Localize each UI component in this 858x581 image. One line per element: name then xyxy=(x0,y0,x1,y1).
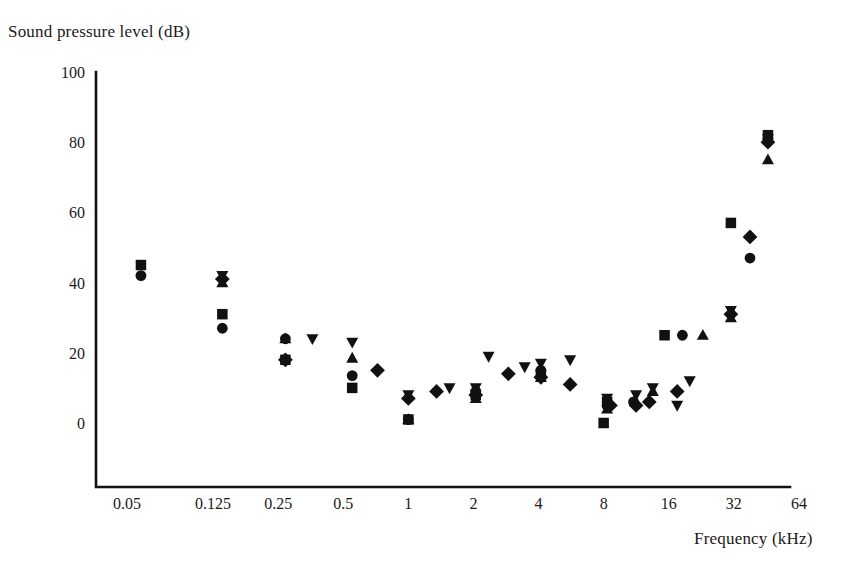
data-point-triangle-up xyxy=(762,153,774,164)
y-tick-label: 40 xyxy=(69,275,85,292)
data-point-triangle-down xyxy=(519,362,531,373)
y-tick-labels: 020406080100 xyxy=(61,64,85,432)
x-tick-label: 2 xyxy=(469,495,477,512)
data-point-diamond xyxy=(563,377,578,392)
figure-canvas: Sound pressure level (dB) Frequency (kHz… xyxy=(0,0,858,581)
data-point-circle xyxy=(745,253,756,264)
x-tick-labels: 0.050.1250.250.51248163264 xyxy=(113,495,807,512)
data-point-triangle-down xyxy=(483,352,495,363)
data-point-triangle-down xyxy=(346,338,358,349)
x-tick-label: 0.05 xyxy=(113,495,141,512)
data-point-diamond xyxy=(429,384,444,399)
data-markers xyxy=(136,130,776,428)
data-point-square xyxy=(726,218,737,229)
x-tick-label: 64 xyxy=(791,495,807,512)
data-point-triangle-down xyxy=(684,376,696,387)
data-point-diamond xyxy=(670,384,685,399)
data-point-circle xyxy=(677,330,688,341)
series-circle xyxy=(136,133,774,425)
data-point-triangle-down xyxy=(564,355,576,366)
data-point-diamond xyxy=(370,363,385,378)
data-point-triangle-down xyxy=(647,383,659,394)
data-point-square xyxy=(136,260,147,271)
x-tick-label: 4 xyxy=(535,495,543,512)
data-point-square xyxy=(659,330,670,341)
data-point-diamond xyxy=(501,366,516,381)
y-tick-label: 60 xyxy=(69,204,85,221)
data-point-triangle-down xyxy=(444,383,456,394)
data-point-diamond xyxy=(743,230,758,245)
data-point-square xyxy=(598,418,609,429)
series-triangle-down xyxy=(216,134,774,412)
data-point-circle xyxy=(347,370,358,381)
data-point-triangle-down xyxy=(306,334,318,345)
axis-lines xyxy=(96,72,790,487)
scatter-plot: 020406080100 0.050.1250.250.51248163264 xyxy=(0,0,858,581)
x-tick-label: 8 xyxy=(600,495,608,512)
data-point-triangle-up xyxy=(697,329,709,340)
data-point-triangle-down xyxy=(671,401,683,412)
data-point-diamond xyxy=(642,395,657,410)
x-tick-label: 16 xyxy=(661,495,677,512)
data-point-circle xyxy=(136,270,147,281)
x-tick-label: 0.125 xyxy=(195,495,231,512)
axes xyxy=(96,72,790,487)
series-diamond xyxy=(215,135,775,413)
x-tick-label: 1 xyxy=(404,495,412,512)
y-tick-label: 20 xyxy=(69,345,85,362)
data-point-square xyxy=(217,309,228,320)
x-tick-label: 0.25 xyxy=(264,495,292,512)
y-tick-label: 100 xyxy=(61,64,85,81)
y-tick-label: 80 xyxy=(69,134,85,151)
x-tick-label: 32 xyxy=(726,495,742,512)
data-point-square xyxy=(347,383,358,394)
data-point-triangle-up xyxy=(346,352,358,363)
x-tick-label: 0.5 xyxy=(333,495,353,512)
data-point-circle xyxy=(217,323,228,334)
y-tick-label: 0 xyxy=(77,415,85,432)
